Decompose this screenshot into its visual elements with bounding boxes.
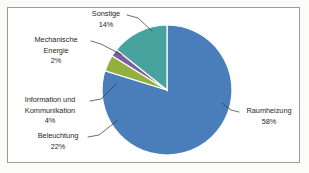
- pie-label-mechanische-energie-line2: Energie: [22, 46, 90, 57]
- pie-label-mechanische-energie: Mechanische Energie 2%: [22, 35, 90, 67]
- pie-label-raumheizung-name: Raumheizung: [246, 106, 291, 115]
- pie-slices: [102, 25, 232, 155]
- pie-label-raumheizung: Raumheizung 58%: [240, 106, 298, 127]
- pie-label-sonstige-name: Sonstige: [92, 9, 120, 18]
- pie-label-information-kommunikation-line1: Information und: [25, 95, 76, 104]
- pie-label-information-kommunikation: Information und Kommunikation 4%: [10, 95, 90, 127]
- pie-label-information-kommunikation-line2: Kommunikation: [10, 106, 90, 117]
- pie-label-beleuchtung-name: Beleuchtung: [38, 131, 79, 140]
- pie-label-information-kommunikation-percent: 4%: [10, 116, 90, 127]
- pie-label-sonstige-percent: 14%: [84, 20, 128, 31]
- pie-label-raumheizung-percent: 58%: [240, 117, 298, 128]
- pie-label-mechanische-energie-line1: Mechanische: [35, 35, 78, 44]
- pie-label-beleuchtung: Beleuchtung 22%: [27, 131, 89, 152]
- pie-label-mechanische-energie-percent: 2%: [22, 56, 90, 67]
- pie-label-beleuchtung-percent: 22%: [27, 142, 89, 153]
- pie-label-sonstige: Sonstige 14%: [84, 9, 128, 30]
- pie-chart-screenshot: Sonstige 14% Mechanische Energie 2% Info…: [0, 0, 309, 173]
